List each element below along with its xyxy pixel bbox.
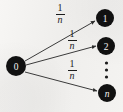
edge-0-to-2 — [26, 46, 96, 65]
vertical-ellipsis-dot-2 — [105, 68, 108, 71]
edge-label-0-to-1: 1 n — [52, 3, 68, 25]
vertical-ellipsis-dot-1 — [105, 61, 108, 64]
graph-figure: 0 1 2 n 1 n 1 n 1 n — [0, 0, 123, 112]
edge-label-0-to-2-denominator: n — [64, 41, 80, 51]
edge-0-to-n — [25, 72, 97, 91]
edge-label-0-to-n: 1 n — [64, 59, 80, 81]
edge-label-0-to-n-denominator: n — [64, 71, 80, 81]
vertical-ellipsis-dot-3 — [105, 75, 108, 78]
node-target-n-label: n — [105, 89, 110, 99]
edge-label-0-to-2-numerator: 1 — [64, 29, 80, 39]
edge-label-0-to-2: 1 n — [64, 29, 80, 51]
edge-label-0-to-1-denominator: n — [52, 15, 68, 25]
node-target-1-label: 1 — [103, 14, 108, 24]
edge-label-0-to-n-numerator: 1 — [64, 59, 80, 69]
edge-label-0-to-1-numerator: 1 — [52, 3, 68, 13]
node-target-2-label: 2 — [104, 42, 109, 52]
edge-0-to-1 — [25, 21, 95, 61]
node-source-0-label: 0 — [14, 62, 19, 72]
